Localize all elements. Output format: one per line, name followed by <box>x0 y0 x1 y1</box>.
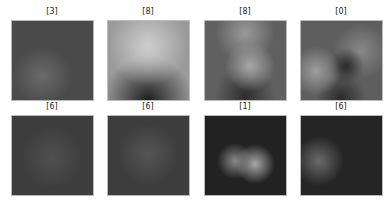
grayscale-image <box>11 20 94 101</box>
grayscale-image <box>300 20 383 101</box>
cell-label: [8] <box>204 7 286 17</box>
grayscale-image <box>11 115 94 196</box>
cell-label: [0] <box>300 7 382 17</box>
cell-label: [3] <box>11 7 93 17</box>
grayscale-image <box>107 115 190 196</box>
grayscale-image <box>204 20 287 101</box>
cell-label: [8] <box>107 7 189 17</box>
grayscale-image <box>107 20 190 101</box>
cell-label: [6] <box>300 102 382 112</box>
grayscale-image <box>300 115 383 196</box>
cell-label: [6] <box>107 102 189 112</box>
cell-label: [6] <box>11 102 93 112</box>
grayscale-image <box>204 115 287 196</box>
cell-label: [1] <box>204 102 286 112</box>
